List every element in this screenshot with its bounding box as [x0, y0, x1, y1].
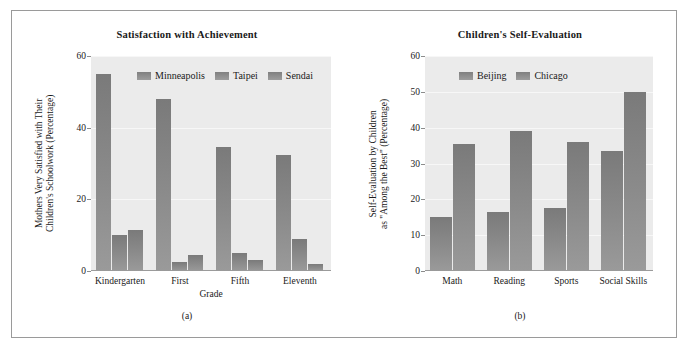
chart-title-a: Satisfaction with Achievement [12, 29, 362, 40]
legend-item-sendai[interactable]: Sendai [268, 70, 313, 81]
y-axis-tick-mark [87, 128, 91, 129]
bar-minneapolis-fifth [216, 147, 231, 271]
legend-b: Beijing Chicago [459, 70, 568, 81]
figure-container: Satisfaction with Achievement Mothers Ve… [11, 10, 677, 338]
y-axis-tick-mark [421, 271, 425, 272]
y-axis-title-a: Mothers Very Satisfied with Their Childr… [34, 95, 56, 232]
y-axis-tick-label: 10 [411, 230, 421, 240]
bar-chicago-reading [510, 131, 532, 271]
y-axis-title-a-line1: Mothers Very Satisfied with Their [34, 95, 45, 232]
y-axis-tick-label: 30 [411, 159, 421, 169]
y-axis-tick-label: 60 [77, 51, 87, 61]
y-axis-tick-mark [421, 199, 425, 200]
bar-beijing-math [430, 217, 452, 271]
x-axis-tick-label: Reading [493, 276, 525, 286]
y-axis-tick-label: 0 [81, 266, 86, 276]
chart-panel-a: Satisfaction with Achievement Mothers Ve… [12, 11, 362, 337]
y-axis-tick-mark [87, 271, 91, 272]
gridline [91, 56, 331, 57]
panel-caption-b: (b) [362, 311, 678, 321]
bar-sendai-fifth [248, 260, 263, 271]
legend-swatch-icon [215, 72, 229, 80]
plot-area-b: Beijing Chicago 0102030405060MathReading… [425, 56, 653, 271]
gridline [425, 56, 653, 57]
y-axis-title-a-line2: Children's Schoolwork (Percentage) [45, 95, 56, 232]
legend-a: Minneapolis Taipei Sendai [137, 70, 313, 81]
bar-beijing-sports [544, 208, 566, 271]
x-axis-tick-label: Kindergarten [95, 276, 145, 286]
legend-label-taipei: Taipei [233, 70, 258, 81]
y-axis-tick-label: 0 [415, 266, 420, 276]
bar-minneapolis-kindergarten [96, 74, 111, 271]
legend-item-beijing[interactable]: Beijing [459, 70, 506, 81]
y-axis-tick-label: 20 [411, 194, 421, 204]
legend-item-taipei[interactable]: Taipei [215, 70, 258, 81]
y-axis-tick-label: 40 [77, 123, 87, 133]
legend-label-minneapolis: Minneapolis [155, 70, 205, 81]
x-axis-tick-label: Eleventh [283, 276, 317, 286]
legend-swatch-icon [459, 72, 473, 80]
y-axis-tick-label: 50 [411, 87, 421, 97]
legend-label-chicago: Chicago [534, 70, 567, 81]
bar-taipei-first [172, 262, 187, 271]
legend-swatch-icon [268, 72, 282, 80]
gridline [91, 199, 331, 200]
y-axis-tick-mark [87, 56, 91, 57]
gridline [91, 128, 331, 129]
bar-sendai-first [188, 255, 203, 271]
bar-taipei-eleventh [292, 239, 307, 271]
bar-chicago-sports [567, 142, 589, 271]
legend-label-sendai: Sendai [286, 70, 313, 81]
y-axis-tick-mark [421, 92, 425, 93]
chart-title-b: Children's Self-Evaluation [362, 29, 678, 40]
x-axis-tick-label: Social Skills [599, 276, 647, 286]
bar-beijing-social-skills [601, 151, 623, 271]
x-axis-tick-label: Sports [554, 276, 578, 286]
y-axis-title-b-line1: Self-Evaluation by Children [368, 98, 379, 228]
x-axis-tick-label: Fifth [231, 276, 249, 286]
y-axis-tick-mark [421, 56, 425, 57]
bar-sendai-eleventh [308, 264, 323, 271]
legend-label-beijing: Beijing [477, 70, 506, 81]
gridline [425, 92, 653, 93]
bar-taipei-kindergarten [112, 235, 127, 271]
bar-taipei-fifth [232, 253, 247, 271]
y-axis-tick-mark [87, 199, 91, 200]
plot-area-a: Minneapolis Taipei Sendai 0204060Kinderg… [91, 56, 331, 271]
x-axis-title-a: Grade [91, 289, 331, 299]
x-axis-tick-label: Math [442, 276, 462, 286]
bar-minneapolis-first [156, 99, 171, 271]
y-axis-tick-mark [421, 164, 425, 165]
y-axis-tick-label: 40 [411, 123, 421, 133]
y-axis-tick-mark [421, 128, 425, 129]
bar-chicago-social-skills [624, 92, 646, 271]
bar-chicago-math [453, 144, 475, 271]
chart-panel-b: Children's Self-Evaluation Self-Evaluati… [362, 11, 678, 337]
y-axis-title-b: Self-Evaluation by Children as "Among th… [368, 98, 390, 228]
bar-minneapolis-eleventh [276, 155, 291, 271]
gridline [425, 128, 653, 129]
y-axis-tick-label: 20 [77, 194, 87, 204]
panel-caption-a: (a) [12, 311, 362, 321]
legend-item-chicago[interactable]: Chicago [516, 70, 567, 81]
y-axis-title-b-line2: as "Among the Best" (Percentage) [379, 98, 390, 228]
x-axis-tick-label: First [171, 276, 188, 286]
legend-swatch-icon [516, 72, 530, 80]
legend-item-minneapolis[interactable]: Minneapolis [137, 70, 205, 81]
y-axis-tick-label: 60 [411, 51, 421, 61]
y-axis-tick-mark [421, 235, 425, 236]
bar-sendai-kindergarten [128, 230, 143, 271]
legend-swatch-icon [137, 72, 151, 80]
bar-beijing-reading [487, 212, 509, 271]
